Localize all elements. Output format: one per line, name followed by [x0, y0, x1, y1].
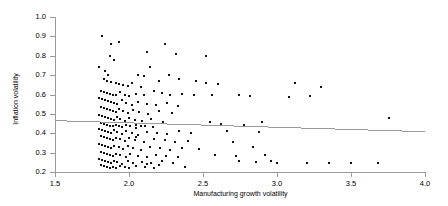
scatter-chart-figure: 0.20.30.40.50.60.70.80.91.0 1.52.02.53.0… [0, 0, 448, 206]
y-axis-title: Inflation volatility [12, 44, 20, 154]
x-axis-title: Manufacturing growth volatility [55, 190, 426, 198]
trendline [0, 0, 448, 206]
